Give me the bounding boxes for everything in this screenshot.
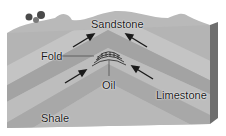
tree-icon bbox=[37, 11, 45, 19]
side-face bbox=[210, 22, 218, 124]
label-fold: Fold bbox=[41, 51, 62, 62]
label-shale: Shale bbox=[41, 113, 69, 124]
label-limestone: Limestone bbox=[156, 90, 207, 101]
anticline-diagram: Sandstone Fold Oil Limestone Shale bbox=[0, 0, 226, 136]
label-sandstone: Sandstone bbox=[91, 19, 144, 30]
tree-icon bbox=[26, 14, 33, 21]
label-oil: Oil bbox=[102, 80, 115, 91]
